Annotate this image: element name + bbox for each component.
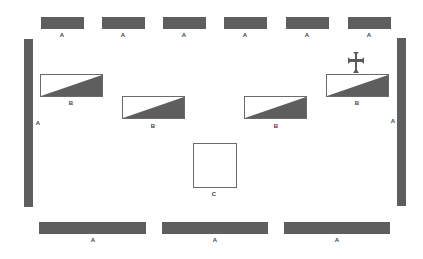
bottom-bar-1-label: A: [91, 237, 95, 243]
left-bar-label: A: [36, 120, 40, 126]
diagonal-fill: [327, 75, 388, 96]
b-box-3: [244, 96, 307, 119]
diagonal-fill: [41, 75, 102, 96]
b-box-4-label: B: [355, 100, 359, 106]
b-box-1: [40, 74, 103, 97]
right-bar: [397, 38, 406, 206]
top-bar-6: [348, 17, 391, 29]
bottom-bar-1: [39, 222, 146, 234]
top-bar-2: [102, 17, 145, 29]
c-box-label: C: [212, 191, 216, 197]
b-box-1-label: B: [69, 100, 73, 106]
diagonal-fill: [123, 97, 184, 118]
b-box-3-label: B: [274, 123, 278, 129]
top-bar-5-label: A: [305, 32, 309, 38]
top-bar-5: [286, 17, 329, 29]
bottom-bar-2-label: A: [213, 237, 217, 243]
top-bar-4-label: A: [243, 32, 247, 38]
top-bar-3-label: A: [182, 32, 186, 38]
b-box-4: [326, 74, 389, 97]
top-bar-4: [224, 17, 267, 29]
c-box: [193, 143, 237, 188]
left-bar: [24, 39, 33, 207]
top-bar-6-label: A: [367, 32, 371, 38]
bottom-bar-2: [162, 222, 268, 234]
diagonal-fill: [245, 97, 306, 118]
top-bar-3: [163, 17, 206, 29]
top-bar-1: [41, 17, 84, 29]
b-box-2: [122, 96, 185, 119]
right-bar-label: A: [391, 118, 395, 124]
b-box-2-label: B: [151, 123, 155, 129]
top-bar-2-label: A: [121, 32, 125, 38]
bottom-bar-3-label: A: [335, 237, 339, 243]
top-bar-1-label: A: [60, 32, 64, 38]
bottom-bar-3: [284, 222, 390, 234]
cross-icon: [346, 51, 366, 74]
